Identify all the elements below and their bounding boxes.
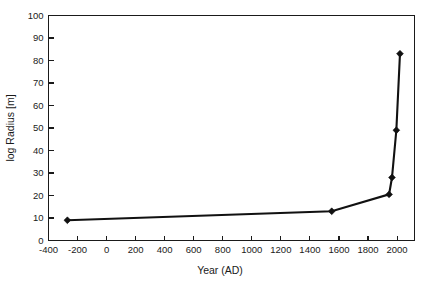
data-point-marker (328, 208, 335, 215)
axis-frame (49, 16, 415, 241)
chart-canvas: 0102030405060708090100 -400-200020040060… (0, 0, 426, 292)
y-tick-label: 90 (33, 32, 44, 43)
x-tick-label: 0 (104, 244, 109, 255)
x-tick-label: 400 (157, 244, 173, 255)
x-tick-label: 1200 (270, 244, 291, 255)
y-tick-label: 80 (33, 55, 44, 66)
data-point-marker (397, 50, 404, 57)
series-line (67, 54, 400, 221)
x-tick-label: -200 (68, 244, 87, 255)
plot-frame (49, 16, 415, 241)
y-tick-label: 50 (33, 122, 44, 133)
x-axis-tick-labels: -400-20002004006008001000120014001600180… (39, 244, 408, 255)
x-tick-label: 1600 (328, 244, 349, 255)
x-tick-label: 2000 (387, 244, 408, 255)
data-point-marker (64, 217, 71, 224)
x-axis-title: Year (AD) (197, 264, 243, 276)
x-tick-label: -400 (39, 244, 58, 255)
data-point-marker (389, 174, 396, 181)
data-point-marker (393, 127, 400, 134)
chart-figure: 0102030405060708090100 -400-200020040060… (0, 0, 426, 292)
y-tick-label: 20 (33, 190, 44, 201)
data-series-layer (64, 50, 403, 223)
x-tick-label: 1000 (241, 244, 262, 255)
y-tick-label: 100 (28, 10, 44, 21)
y-axis-title: log Radius [m] (4, 94, 16, 161)
y-tick-label: 30 (33, 167, 44, 178)
x-tick-label: 800 (215, 244, 231, 255)
y-tick-label: 70 (33, 77, 44, 88)
y-tick-label: 60 (33, 100, 44, 111)
data-point-marker (386, 191, 393, 198)
x-tick-label: 1800 (357, 244, 378, 255)
y-axis-tick-labels: 0102030405060708090100 (28, 10, 44, 246)
y-tick-label: 40 (33, 145, 44, 156)
y-tick-label: 10 (33, 212, 44, 223)
x-tick-label: 600 (186, 244, 202, 255)
x-tick-label: 1400 (299, 244, 320, 255)
x-tick-label: 200 (128, 244, 144, 255)
